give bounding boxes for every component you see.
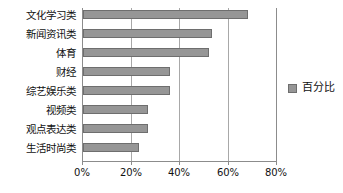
bar-chart: 文化学习类 新闻资讯类 体育 财经 综艺娱乐类 视频类 观点表达类 生活时尚类 (0, 0, 343, 193)
y-axis-category-labels: 文化学习类 新闻资讯类 体育 财经 综艺娱乐类 视频类 观点表达类 生活时尚类 (0, 9, 79, 161)
xtick-mark-4 (276, 162, 277, 165)
xtick-mark-3 (228, 162, 229, 165)
chart-legend: 百分比 (288, 82, 335, 94)
xtick-mark-1 (131, 162, 132, 165)
xtick-mark-0 (82, 162, 83, 165)
xtick-label-4: 80% (256, 167, 296, 179)
xtick-label-3: 60% (208, 167, 248, 179)
bar-3 (83, 67, 170, 76)
legend-label-percentage: 百分比 (302, 82, 335, 94)
xtick-mark-2 (179, 162, 180, 165)
bar-6 (83, 124, 148, 133)
xtick-label-2: 40% (159, 167, 199, 179)
y-axis-label-1: 新闻资讯类 (26, 28, 77, 40)
y-axis-label-7: 生活时尚类 (26, 142, 77, 154)
bar-2 (83, 48, 209, 57)
y-axis-label-2: 体育 (56, 47, 76, 59)
plot-area (82, 8, 276, 162)
bar-5 (83, 105, 148, 114)
bar-7 (83, 143, 139, 152)
y-axis-label-6: 观点表达类 (26, 123, 77, 135)
bar-series-percentage (83, 8, 277, 161)
y-axis-label-4: 综艺娱乐类 (26, 85, 77, 97)
legend-swatch-percentage (288, 84, 297, 93)
bar-4 (83, 86, 170, 95)
y-axis-label-0: 文化学习类 (26, 9, 77, 21)
bar-1 (83, 29, 212, 38)
bar-0 (83, 10, 248, 19)
xtick-label-1: 20% (111, 167, 151, 179)
y-axis-label-5: 视频类 (46, 104, 76, 116)
y-axis-label-3: 财经 (56, 66, 76, 78)
xtick-label-0: 0% (62, 167, 102, 179)
